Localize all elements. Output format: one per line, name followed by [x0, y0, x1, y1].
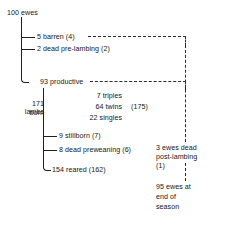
branch-label-stillborn: 9 stillborn (7): [59, 132, 101, 140]
dashed-connector-productive: [90, 81, 186, 90]
litter-label-singles: 22 singles: [78, 114, 122, 122]
branch-line-barren: [21, 37, 35, 38]
dashed-vertical-ewe-column: [185, 45, 186, 142]
season-end-label-line2: end of: [156, 193, 176, 201]
branch-label-dead-preweaning: 8 dead preweaning (6): [59, 146, 131, 154]
season-end-label-line3: season: [156, 203, 179, 211]
ewe-outcome-label-line2: post-lambing: [156, 153, 197, 161]
litter-total-label: (175): [131, 103, 148, 111]
ewe-outcome-label-line1: 3 ewes dead: [156, 144, 197, 152]
lambs-trunk-elbow-reared: [43, 160, 51, 171]
dashed-vertical-season-link: [185, 163, 186, 181]
branch-line-dead-pre-lambing: [21, 49, 35, 50]
branch-line-dead-preweaning: [43, 150, 57, 151]
season-end-label-line1: 95 ewes at: [156, 183, 191, 191]
ewe-outcome-label-line3: (1): [156, 162, 165, 170]
trunk-elbow-productive: [21, 72, 29, 83]
sheep-flock-flow-diagram: 100 ewes 5 barren (4) 2 dead pre-lambing…: [0, 0, 228, 225]
branch-line-stillborn: [43, 136, 57, 137]
litter-label-triples: 7 triples: [78, 92, 122, 100]
branch-label-reared: 154 reared (162): [52, 166, 106, 174]
trunk-vertical-line: [21, 17, 22, 77]
branch-label-dead-pre-lambing: 2 dead pre-lambing (2): [37, 45, 110, 53]
lambs-born-label-line2: born: [12, 109, 44, 117]
branch-label-productive: 93 productive: [40, 78, 83, 86]
branch-label-barren: 5 barren (4): [37, 33, 75, 41]
root-node-label: 100 ewes: [7, 9, 38, 17]
litter-label-twins: 64 twins: [78, 103, 122, 111]
dashed-connector-barren: [88, 36, 186, 46]
